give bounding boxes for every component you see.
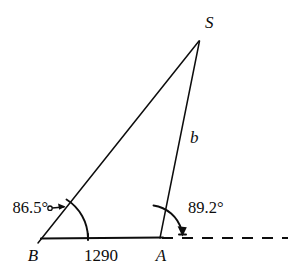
baseline-length-label: 1290 <box>84 246 118 265</box>
angle-label-b: 86.5° <box>13 198 48 217</box>
triangle-diagram: S B A b 1290 86.5° 89.2° <box>0 0 299 276</box>
angle-arc-a <box>154 206 182 231</box>
segment-bs <box>38 41 199 243</box>
angle-b-leader-dot <box>48 206 52 210</box>
vertex-label-s: S <box>205 13 214 32</box>
vertex-label-a: A <box>155 246 167 265</box>
segment-ba-baseline <box>41 238 163 239</box>
angle-arc-b <box>67 200 89 239</box>
angle-label-a: 89.2° <box>188 198 223 217</box>
side-label-b: b <box>190 128 199 147</box>
vertex-label-b: B <box>28 246 39 265</box>
